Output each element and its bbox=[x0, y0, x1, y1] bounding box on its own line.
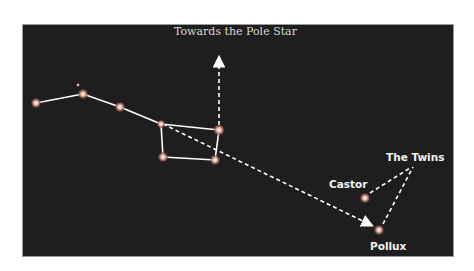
big-dipper-lines bbox=[36, 94, 219, 160]
pollux-label: Pollux bbox=[370, 240, 406, 252]
twins-castor-line bbox=[370, 168, 410, 193]
constellation-diagram bbox=[0, 0, 474, 271]
twins-pollux-line bbox=[383, 167, 413, 224]
castor-label: Castor bbox=[329, 178, 367, 190]
pointer-lines bbox=[163, 58, 413, 225]
twins-label: The Twins bbox=[386, 151, 444, 163]
pole-star-label: Towards the Pole Star bbox=[174, 25, 297, 38]
pollux-arrow bbox=[163, 124, 371, 225]
